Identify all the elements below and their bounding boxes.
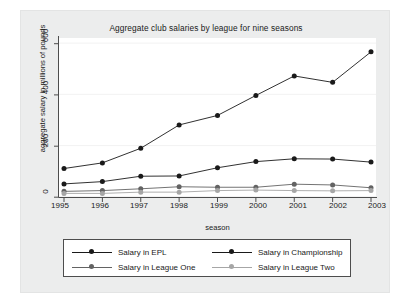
x-tick-label-1999: 1999: [204, 201, 234, 210]
legend-entry-championship[interactable]: Salary in Championship: [212, 244, 343, 260]
x-tick-label-2002: 2002: [323, 201, 353, 210]
legend-entry-epl[interactable]: Salary in EPL: [72, 244, 166, 260]
legend-label-epl: Salary in EPL: [118, 248, 166, 257]
legend-label-championship: Salary in Championship: [258, 248, 343, 257]
chart-legend: Salary in EPL Salary in Championship Sal…: [63, 239, 351, 277]
x-tick-label-1998: 1998: [164, 201, 194, 210]
x-axis-title: season: [59, 223, 376, 232]
chart-figure: Aggregate club salaries by league for ni…: [0, 0, 409, 303]
x-tick-label-1996: 1996: [85, 201, 115, 210]
legend-entry-league-two[interactable]: Salary in League Two: [212, 259, 335, 275]
legend-key-championship: [212, 247, 252, 257]
x-tick-label-1997: 1997: [124, 201, 154, 210]
graph-region: Aggregate club salaries by league for ni…: [20, 10, 390, 293]
legend-key-league-two: [212, 262, 252, 272]
x-tick-label-2003: 2003: [362, 201, 392, 210]
legend-entry-league-one[interactable]: Salary in League One: [72, 259, 195, 275]
x-tick-label-2000: 2000: [243, 201, 273, 210]
x-tick-label-2001: 2001: [283, 201, 313, 210]
x-tick-label-1995: 1995: [45, 201, 75, 210]
legend-key-epl: [72, 247, 112, 257]
legend-key-league-one: [72, 262, 112, 272]
legend-label-league-one: Salary in League One: [118, 263, 195, 272]
legend-label-league-two: Salary in League Two: [258, 263, 335, 272]
